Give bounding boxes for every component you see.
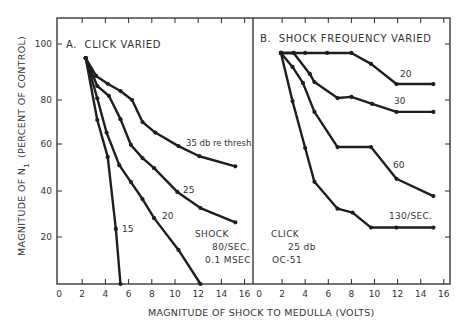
x-tick-label: 6: [325, 289, 331, 299]
data-point: [140, 197, 144, 201]
data-point: [301, 81, 305, 85]
x-tick-label: 12: [392, 289, 403, 299]
panel-a-title: A. CLICK VARIED: [66, 39, 161, 50]
data-point: [325, 51, 329, 55]
x-tick-label: 14: [216, 289, 228, 299]
data-point: [176, 144, 180, 148]
data-point: [369, 145, 373, 149]
data-point: [370, 102, 374, 106]
data-point: [431, 82, 435, 86]
data-point: [176, 248, 180, 252]
data-point: [394, 177, 398, 181]
data-point: [431, 225, 435, 229]
series-line: [281, 53, 433, 228]
series-label-15: 15: [122, 224, 133, 234]
data-point: [130, 98, 134, 102]
data-point: [118, 89, 122, 93]
data-point: [84, 56, 88, 60]
data-point: [394, 110, 398, 114]
data-point: [290, 65, 294, 69]
svg-text:MAGNITUDE OF N1(PERCENT OF CON: MAGNITUDE OF N1(PERCENT OF CONTROL): [16, 36, 31, 256]
data-point: [312, 110, 316, 114]
data-point: [107, 94, 111, 98]
series-label-20: 20: [162, 211, 174, 221]
panel-b-title: B. SHOCK FREQUENCY VARIED: [260, 33, 432, 44]
y-axis-label-subscript: 1: [23, 163, 31, 168]
y-tick-label: 100: [35, 39, 52, 49]
series-line: [86, 58, 236, 166]
x-tick-label: 2: [79, 289, 85, 299]
data-point: [95, 118, 99, 122]
data-point: [118, 282, 122, 286]
data-point: [118, 117, 122, 121]
data-point: [312, 80, 316, 84]
data-point: [349, 95, 353, 99]
data-point: [175, 190, 179, 194]
data-point: [95, 84, 99, 88]
data-point: [312, 180, 316, 184]
data-point: [140, 156, 144, 160]
x-axis-label: MAGNITUDE OF SHOCK TO MEDULLA (VOLTS): [148, 307, 375, 318]
series-label-b130: 130/SEC.: [389, 211, 432, 221]
y-tick-label: 20: [41, 232, 53, 242]
data-point: [152, 166, 156, 170]
data-point: [369, 225, 373, 229]
data-point: [233, 220, 237, 224]
x-tick-label: 0: [256, 289, 262, 299]
data-point: [117, 163, 121, 167]
data-point: [129, 180, 133, 184]
x-tick-label: 0: [56, 289, 62, 299]
data-point: [106, 155, 110, 159]
panel-a-note-shock: SHOCK: [195, 229, 229, 239]
data-point: [394, 82, 398, 86]
y-axis-label-main: MAGNITUDE OF N: [16, 168, 27, 256]
y-tick-label: 80: [41, 95, 53, 105]
series-label-b60: 60: [393, 160, 405, 170]
data-point: [198, 282, 202, 286]
data-point: [152, 216, 156, 220]
data-point: [198, 206, 202, 210]
panel-a-note-rate: 80/SEC.: [212, 242, 250, 252]
data-point: [335, 96, 339, 100]
data-point: [290, 99, 294, 103]
x-tick-label: 8: [149, 289, 155, 299]
x-tick-label: 8: [349, 289, 355, 299]
panel-a-note-duration: 0.1 MSEC: [205, 255, 251, 265]
x-tick-label: 10: [169, 289, 181, 299]
x-tick-label: 2: [279, 289, 285, 299]
y-tick-label: 40: [41, 186, 53, 196]
x-tick-label: 6: [126, 289, 132, 299]
data-point: [292, 51, 296, 55]
series-label-35db: 35 db re thresh.: [186, 138, 254, 148]
x-tick-label: 10: [369, 289, 381, 299]
data-point: [106, 82, 110, 86]
data-point: [335, 207, 339, 211]
panel-b-note-level: 25 db: [288, 242, 316, 252]
data-point: [308, 72, 312, 76]
x-tick-label: 16: [438, 289, 450, 299]
data-point: [394, 225, 398, 229]
x-tick-label: 12: [192, 289, 203, 299]
data-point: [350, 211, 354, 215]
y-axis-label: MAGNITUDE OF N1(PERCENT OF CONTROL): [16, 36, 31, 256]
data-point: [104, 130, 108, 134]
x-tick-label: 16: [239, 289, 251, 299]
data-point: [279, 51, 283, 55]
data-point: [197, 154, 201, 158]
data-point: [431, 110, 435, 114]
series-label-b20: 20: [400, 69, 412, 79]
panel-b-note-click: CLICK: [271, 229, 300, 239]
series-label-25: 25: [183, 185, 194, 195]
data-series: [84, 51, 436, 286]
data-point: [349, 51, 353, 55]
panel-b-note-subject: OC-51: [272, 255, 302, 265]
data-point: [303, 146, 307, 150]
y-axis-label-tail: (PERCENT OF CONTROL): [16, 36, 27, 158]
data-point: [95, 96, 99, 100]
x-tick-label: 14: [415, 289, 427, 299]
data-point: [233, 164, 237, 168]
data-point: [140, 120, 144, 124]
data-point: [153, 130, 157, 134]
data-point: [335, 145, 339, 149]
data-point: [114, 227, 118, 231]
